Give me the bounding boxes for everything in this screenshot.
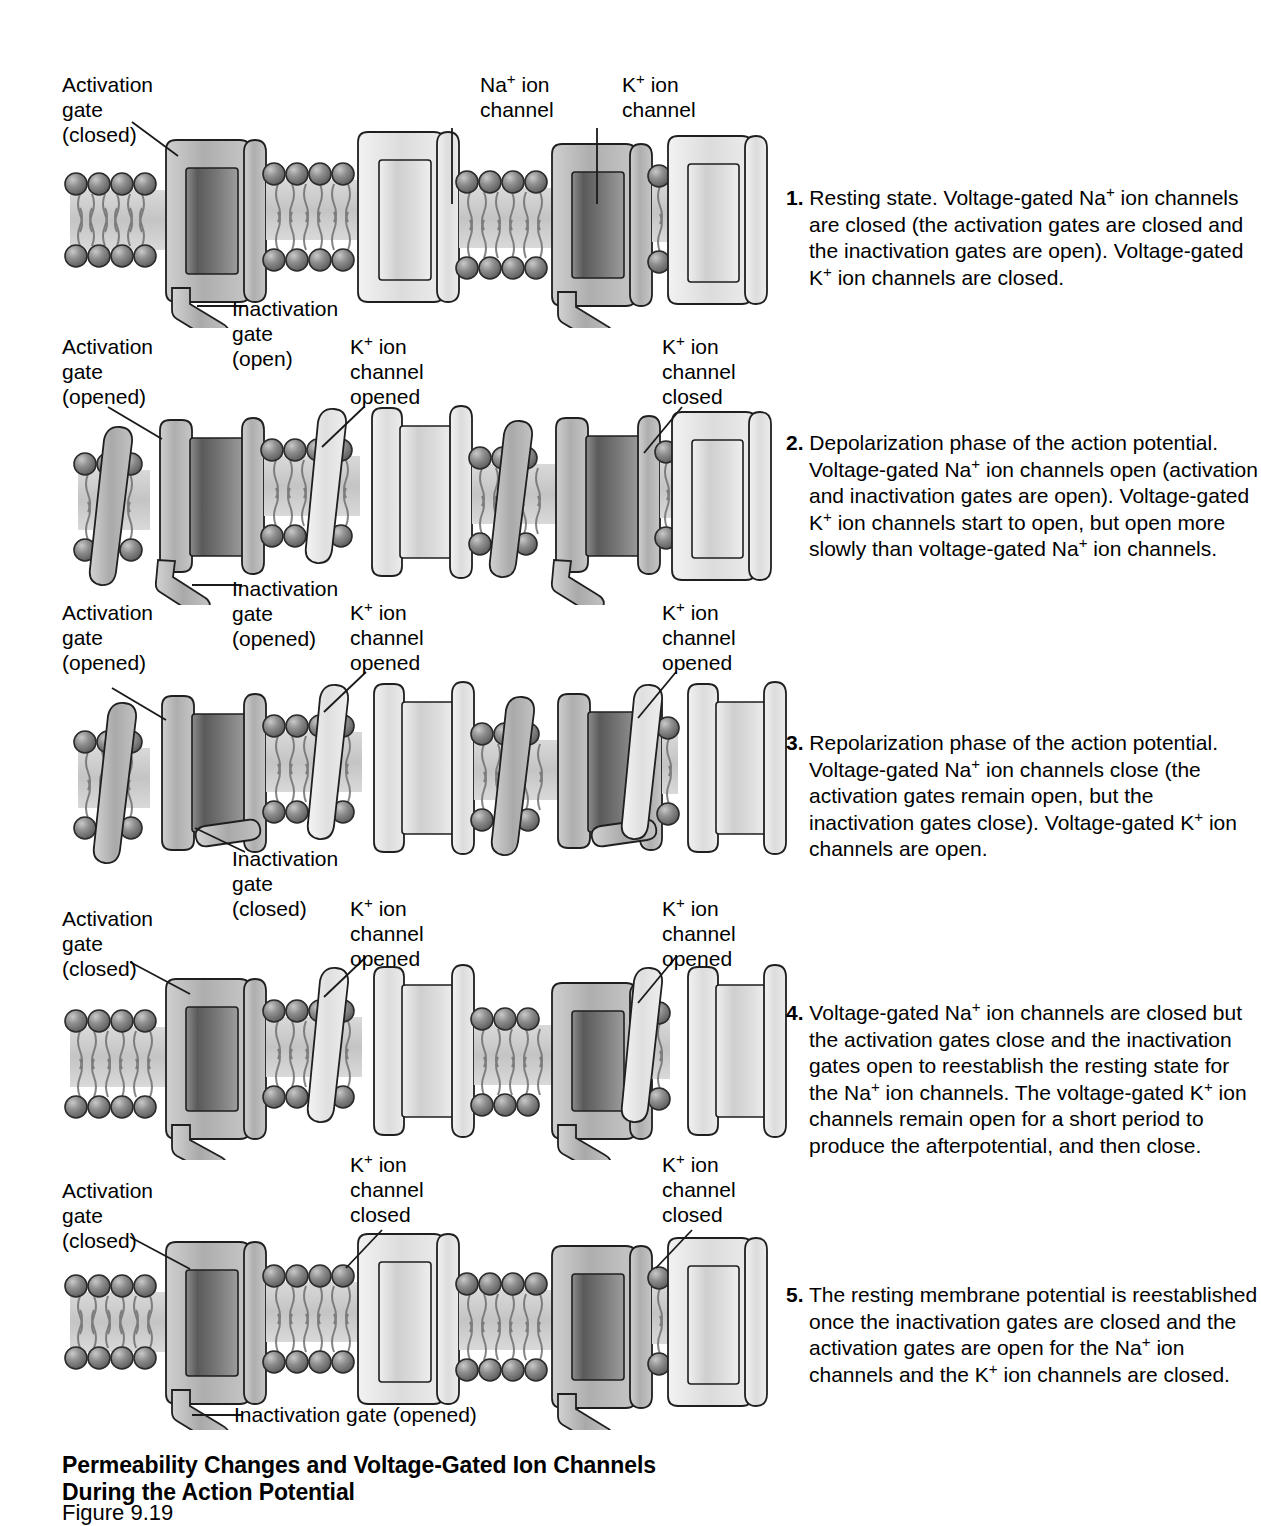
k-channel-right-label-p2: K+ ionchannelclosed [662,334,736,409]
bilayer-segment [65,1275,165,1369]
step-item-1: 1. Resting state. Voltage-gated Na+ ion … [786,185,1261,291]
k-ion-channel-label-p1: K+ ionchannel [622,72,696,122]
step-number: 3. [786,731,804,754]
inactivation-gate-label-p1: Inactivationgate(open) [232,296,338,371]
leader-kchannel-right-p2 [640,405,686,457]
figure-number: Figure 9.19 [62,1500,173,1526]
na-channel-closed [552,144,652,328]
k-channel-closed [672,412,771,580]
bilayer-segment [65,1010,165,1118]
na-channel-closed [166,979,266,1160]
activation-gate-label-p2: Activationgate(opened) [62,334,153,409]
activation-gate-label-p5: Activationgate(closed) [62,1178,153,1253]
step-text: Depolarization phase of the action poten… [809,431,1258,560]
inactivation-gate-label-p2: Inactivationgate(opened) [232,576,338,651]
k-channel-left-label-p5: K+ ionchannelclosed [350,1152,424,1227]
leader-activation-p2 [106,405,186,449]
na-channel-open [490,416,660,605]
inactivation-gate-label-p5: Inactivation gate (opened) [234,1402,477,1427]
bilayer-segment [65,173,165,267]
bilayer-segment [263,1265,370,1373]
figure-title-line1: Permeability Changes and Voltage-Gated I… [62,1452,656,1479]
step-text: Repolarization phase of the action poten… [809,731,1237,860]
k-channel-right-label-p4: K+ ionchannelopened [662,896,736,971]
activation-gate-label-p4: Activationgate(closed) [62,906,153,981]
k-channel-left-label-p4: K+ ionchannelopened [350,896,424,971]
step-number: 1. [786,186,804,209]
activation-gate-label-p1: Activationgate(closed) [62,72,153,147]
step-item-2: 2. Depolarization phase of the action po… [786,430,1261,563]
bilayer-segment [263,163,370,271]
step-text: Resting state. Voltage-gated Na+ ion cha… [809,186,1243,289]
k-channel-right-label-p3: K+ ionchannelopened [662,600,736,675]
k-channel-right-label-p5: K+ ionchannelclosed [662,1152,736,1227]
step-item-5: 5. The resting membrane potential is ree… [786,1282,1261,1388]
leader-kchannel-right-p5 [650,1228,698,1272]
step-text: The resting membrane potential is reesta… [809,1283,1257,1386]
bilayer-segment [456,1273,560,1381]
k-channel-left-label-p3: K+ ionchannelopened [350,600,424,675]
step-item-4: 4. Voltage-gated Na+ ion channels are cl… [786,1000,1261,1159]
step-number: 2. [786,431,804,454]
k-channel-left-label-p2: K+ ionchannelopened [350,334,424,409]
na-ion-channel-label-p1: Na+ ionchannel [480,72,554,122]
activation-gate-label-p3: Activationgate(opened) [62,600,153,675]
step-text: Voltage-gated Na+ ion channels are close… [809,1001,1247,1157]
leader-kchannel-left-p5 [340,1228,388,1272]
bilayer-segment [471,1008,562,1116]
step-item-3: 3. Repolarization phase of the action po… [786,730,1261,863]
k-channel-closed [668,136,767,304]
leader-activation-p3 [110,686,190,730]
bilayer-segment [456,171,560,279]
na-channel-closed [552,1246,652,1430]
step-number: 5. [786,1283,804,1306]
leader-kchannel-right-p3 [634,670,680,722]
leader-kchannel-left-p2 [318,405,368,453]
inactivation-gate-label-p3: Inactivationgate(closed) [232,846,338,921]
k-channel-closed [358,132,459,302]
membrane-panel-1 [0,128,790,328]
leader-kchannel-left-p3 [320,670,370,718]
step-number: 4. [786,1001,804,1024]
